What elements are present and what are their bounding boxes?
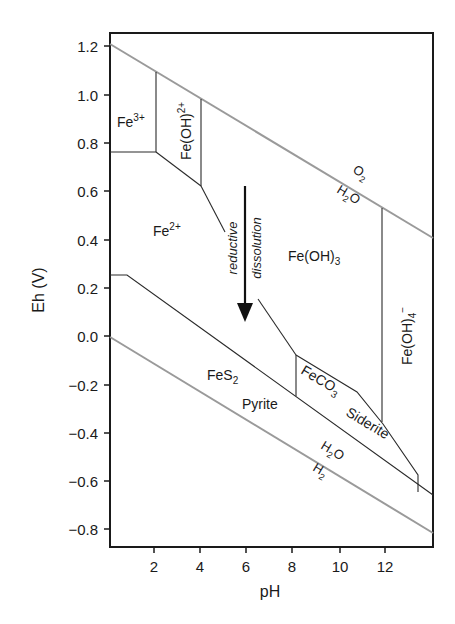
label-fes2: FeS2	[207, 367, 239, 386]
y-tick-label: 0.8	[77, 135, 98, 152]
x-tick-label: 2	[150, 558, 158, 575]
label-feoh4: Fe(OH)4−	[397, 307, 418, 365]
x-tick-label: 8	[288, 558, 296, 575]
label-h2o-upper: H2O	[333, 182, 363, 210]
label-pyrite: Pyrite	[242, 396, 278, 412]
o2-h2o-line	[110, 44, 433, 238]
boundary-fes2	[110, 275, 433, 495]
label-feoh3: Fe(OH)3	[288, 248, 341, 267]
y-tick-label: 0.0	[77, 328, 98, 345]
label-feco3: FeCO3	[297, 362, 344, 401]
annotation-reductive: reductive	[225, 222, 240, 275]
y-tick-label: 0.4	[77, 232, 98, 249]
label-fe3: Fe3+	[117, 112, 145, 130]
y-tick-label: 0.6	[77, 183, 98, 200]
label-fe2: Fe2+	[153, 221, 181, 239]
y-tick-label: −0.6	[68, 473, 98, 490]
x-tick-label: 4	[196, 558, 204, 575]
y-tick-label: 0.2	[77, 280, 98, 297]
x-axis-title: pH	[260, 583, 280, 600]
eh-ph-diagram: 1.2 1.0 0.8 0.6 0.4 0.2 0.0 −0.2 −0.4 −0…	[0, 0, 455, 624]
boundary-fe2-feoh3-lower	[258, 299, 296, 355]
boundary-fe2-feoh3-upper	[201, 186, 225, 232]
label-feoh2: Fe(OH)2+	[176, 102, 194, 160]
x-tick-label: 12	[377, 558, 394, 575]
y-tick-labels: 1.2 1.0 0.8 0.6 0.4 0.2 0.0 −0.2 −0.4 −0…	[68, 38, 98, 538]
y-axis-title: Eh (V)	[30, 267, 47, 312]
arrow-down-icon	[237, 303, 253, 322]
y-tick-label: −0.4	[68, 425, 98, 442]
y-tick-label: −0.8	[68, 521, 98, 538]
x-tick-label: 10	[332, 558, 349, 575]
y-tick-label: 1.0	[77, 87, 98, 104]
annotation-dissolution: dissolution	[249, 217, 264, 278]
plot-frame	[110, 33, 433, 547]
x-tick-label: 6	[242, 558, 250, 575]
x-tick-labels: 2 4 6 8 10 12	[150, 558, 394, 575]
label-o2: O2	[349, 162, 371, 185]
y-tick-label: 1.2	[77, 38, 98, 55]
y-tick-label: −0.2	[68, 377, 98, 394]
label-h2: H2	[309, 460, 331, 483]
